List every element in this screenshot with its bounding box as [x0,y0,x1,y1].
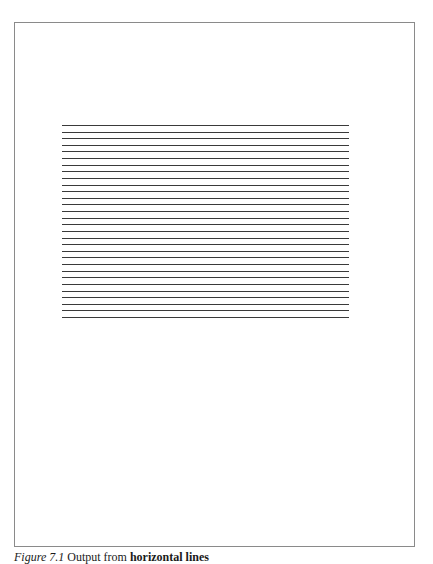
horizontal-line [62,244,349,245]
horizontal-line [62,185,349,186]
horizontal-line [62,138,349,139]
horizontal-line [62,231,349,232]
figure-caption: Figure 7.1 Output from horizontal lines [14,550,209,564]
horizontal-line [62,151,349,152]
horizontal-line [62,251,349,252]
horizontal-line [62,291,349,292]
horizontal-line [62,224,349,225]
horizontal-line [62,310,349,311]
horizontal-line [62,317,349,318]
horizontal-line [62,178,349,179]
horizontal-line [62,132,349,133]
horizontal-line [62,264,349,265]
horizontal-line [62,304,349,305]
horizontal-line [62,238,349,239]
caption-code: horizontal lines [130,550,209,564]
horizontal-line [62,218,349,219]
figure-label: Figure 7.1 [14,550,64,564]
horizontal-line [62,198,349,199]
horizontal-line [62,125,349,126]
horizontal-line [62,284,349,285]
horizontal-line [62,297,349,298]
horizontal-lines-group [62,0,349,559]
horizontal-line [62,158,349,159]
caption-text: Output from [64,550,130,564]
horizontal-line [62,271,349,272]
horizontal-line [62,257,349,258]
horizontal-line [62,171,349,172]
horizontal-line [62,211,349,212]
horizontal-line [62,191,349,192]
horizontal-line [62,204,349,205]
horizontal-line [62,165,349,166]
horizontal-line [62,277,349,278]
horizontal-line [62,145,349,146]
